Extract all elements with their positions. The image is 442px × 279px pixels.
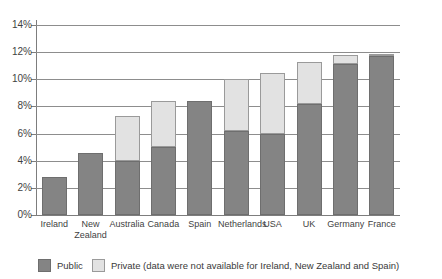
y-axis-tick-label: 6%	[2, 129, 32, 139]
bar-group	[115, 25, 140, 215]
bars-group	[36, 25, 400, 215]
bar-chart: 0%2%4%6%8%10%12%14% IrelandNew ZealandAu…	[0, 0, 442, 279]
bar-group	[297, 25, 322, 215]
y-axis-tick-label: 2%	[2, 183, 32, 193]
bar-group	[151, 25, 176, 215]
legend-label-public: Public	[57, 260, 83, 271]
x-axis-tick-label: New Zealand	[72, 219, 108, 240]
bar-segment-public	[224, 131, 249, 215]
bar-group	[333, 25, 358, 215]
legend-item-private: Private (data were not available for Ire…	[92, 259, 399, 272]
x-axis-tick-labels: IrelandNew ZealandAustraliaCanadaSpainNe…	[36, 219, 400, 249]
bar-segment-public	[260, 134, 285, 215]
bar-segment-public	[297, 104, 322, 215]
y-axis-tick-label: 12%	[2, 47, 32, 57]
x-axis-tick-label: Spain	[182, 219, 218, 230]
y-axis-tick-label: 8%	[2, 101, 32, 111]
bar-group	[369, 25, 394, 215]
y-axis-tick-label: 10%	[2, 74, 32, 84]
bar-segment-public	[333, 64, 358, 215]
public-swatch-icon	[38, 259, 51, 272]
x-axis-tick-label: USA	[254, 219, 290, 230]
bar-segment-public	[369, 56, 394, 215]
legend-item-public: Public	[38, 259, 83, 272]
bar-segment-public	[78, 153, 103, 215]
x-axis-tick-label: Germany	[327, 219, 363, 230]
bar-segment-private	[333, 55, 358, 65]
y-axis-tick-label: 14%	[2, 20, 32, 30]
bar-segment-private	[151, 101, 176, 147]
y-axis-tick-label: 4%	[2, 156, 32, 166]
legend-label-private: Private (data were not available for Ire…	[111, 260, 399, 271]
bar-segment-public	[115, 161, 140, 215]
bar-segment-public	[151, 147, 176, 215]
bar-group	[187, 25, 212, 215]
bar-segment-private	[369, 54, 394, 56]
x-axis-tick-label: France	[364, 219, 400, 230]
bar-segment-public	[187, 101, 212, 215]
bar-group	[78, 25, 103, 215]
x-axis-tick-label: Ireland	[36, 219, 72, 230]
x-axis-tick-label: UK	[291, 219, 327, 230]
bar-group	[224, 25, 249, 215]
plot-area	[36, 25, 400, 215]
bar-segment-public	[42, 177, 67, 215]
bar-segment-private	[297, 62, 322, 104]
bar-group	[260, 25, 285, 215]
bar-segment-private	[115, 116, 140, 161]
chart-legend: Public Private (data were not available …	[38, 256, 408, 274]
x-axis-tick-label: Netherlands	[218, 219, 254, 230]
y-axis-tick-label: 0%	[2, 210, 32, 220]
bar-segment-private	[224, 79, 249, 131]
x-axis-tick-label: Canada	[145, 219, 181, 230]
bar-group	[42, 25, 67, 215]
x-axis-tick-label: Australia	[109, 219, 145, 230]
bar-segment-private	[260, 73, 285, 134]
x-axis-line	[36, 215, 400, 216]
private-swatch-icon	[92, 259, 105, 272]
